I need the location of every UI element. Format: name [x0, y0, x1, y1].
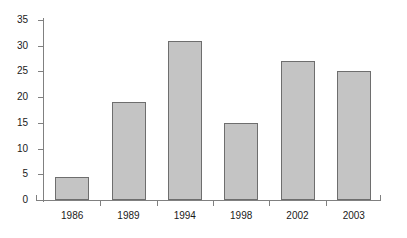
bar: [112, 102, 146, 200]
y-axis-tick-label: 25: [0, 66, 28, 76]
y-axis-tick-label: 0: [0, 195, 28, 205]
x-axis-label: 2002: [269, 210, 325, 222]
x-axis-label: 1989: [100, 210, 156, 222]
bar: [55, 177, 89, 200]
bar: [168, 41, 202, 200]
bar: [281, 61, 315, 200]
y-axis-tick: [38, 149, 43, 150]
x-axis-tick: [213, 201, 214, 206]
y-axis-tick: [38, 71, 43, 72]
bar-chart: 05101520253035 198619891994199820022003: [0, 0, 407, 238]
bar: [337, 71, 371, 200]
y-axis-tick-label: 15: [0, 118, 28, 128]
y-axis-tick: [38, 46, 43, 47]
y-axis-tick: [38, 97, 43, 98]
x-axis-line: [36, 200, 381, 201]
x-axis-tick: [326, 201, 327, 206]
y-axis-tick-label: 5: [0, 169, 28, 179]
x-axis-label: 1998: [213, 210, 269, 222]
x-axis-label: 1994: [157, 210, 213, 222]
y-axis-tick: [38, 123, 43, 124]
x-axis-tick: [269, 201, 270, 206]
x-axis-label: 1986: [44, 210, 100, 222]
y-axis-tick-label: 10: [0, 144, 28, 154]
x-axis-tick: [157, 201, 158, 206]
bar: [224, 123, 258, 200]
plot-area: [44, 20, 382, 200]
x-axis-left-cap: [36, 195, 37, 201]
x-axis-label: 2003: [326, 210, 382, 222]
y-axis-tick-label: 35: [0, 15, 28, 25]
y-axis-tick-label: 30: [0, 41, 28, 51]
y-axis-tick: [38, 174, 43, 175]
y-axis-tick: [38, 20, 43, 21]
y-axis-tick: [38, 200, 43, 201]
y-axis-tick-label: 20: [0, 92, 28, 102]
x-axis-tick: [100, 201, 101, 206]
